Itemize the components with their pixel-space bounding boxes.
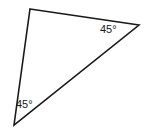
geometry-figure: 45° 45° [0, 0, 144, 131]
angle-label-right: 45° [100, 24, 117, 35]
triangle-outline [14, 9, 139, 125]
angle-label-bottom-left: 45° [16, 99, 33, 110]
triangle-shape [0, 0, 144, 131]
